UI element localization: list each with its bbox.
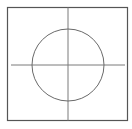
circle-crosshair-diagram — [0, 0, 132, 129]
